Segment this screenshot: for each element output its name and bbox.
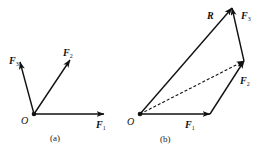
vector-r-b: [140, 8, 232, 114]
vector-f2-a: [34, 60, 70, 114]
figure-a: O F1 F2 F3 (a): [8, 47, 106, 143]
dashed-resultant-f1-f2: [140, 61, 244, 114]
caption-b: (b): [160, 134, 171, 144]
vector-f3-a: [20, 62, 34, 114]
label-f2-a: F2: [62, 47, 73, 59]
label-f1-b: F1: [184, 119, 195, 131]
vector-f2-b: [210, 61, 244, 114]
origin-label-b: O: [127, 116, 134, 127]
origin-label-a: O: [21, 115, 28, 126]
label-f2-b: F2: [239, 75, 250, 87]
label-r-b: R: [206, 10, 214, 21]
force-diagram: O F1 F2 F3 (a) O F1 F2 F3 R (b): [0, 0, 255, 155]
label-f1-a: F1: [95, 119, 106, 131]
label-f3-a: F3: [8, 55, 19, 67]
label-f3-b: F3: [240, 10, 251, 22]
figure-b: O F1 F2 F3 R (b): [127, 8, 251, 144]
origin-point-a: [32, 112, 37, 117]
caption-a: (a): [50, 133, 60, 143]
origin-point-b: [138, 112, 143, 117]
